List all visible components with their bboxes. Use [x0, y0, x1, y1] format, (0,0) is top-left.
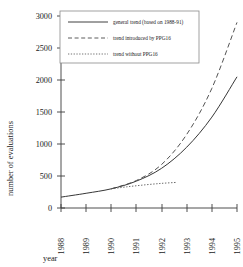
y-tick-label-2000: 2000	[36, 76, 52, 85]
y-tick-label-1500: 1500	[36, 108, 52, 117]
legend-label-trend-without: trend without PPG16	[113, 51, 158, 57]
y-tick-label-0: 0	[48, 204, 52, 213]
legend-label-general-trend: general trend (based on 1988-91)	[113, 19, 184, 26]
x-tick-label-1990: 1990	[107, 238, 116, 254]
chart-legend: general trend (based on 1988-91) trend i…	[60, 11, 199, 63]
x-tick-label-1989: 1989	[82, 238, 91, 254]
y-tick-label-500: 500	[40, 172, 52, 181]
x-tick-label-1994: 1994	[208, 238, 217, 254]
x-tick-label-1992: 1992	[158, 238, 167, 254]
x-tick-label-1995: 1995	[233, 238, 242, 254]
line-chart: 3000 2500 2000 1500 1000 500 0 1988 1989…	[0, 0, 243, 267]
y-tick-label-2500: 2500	[36, 44, 52, 53]
y-tick-label-1000: 1000	[36, 140, 52, 149]
x-tick-label-1991: 1991	[132, 238, 141, 254]
x-axis-title: year	[43, 254, 58, 263]
series-general-trend	[61, 77, 237, 197]
x-tick-label-1993: 1993	[183, 238, 192, 254]
chart-container: 3000 2500 2000 1500 1000 500 0 1988 1989…	[0, 0, 243, 267]
x-tick-label-1988: 1988	[57, 238, 66, 254]
y-tick-label-3000: 3000	[36, 12, 52, 21]
legend-label-trend-introduced: trend introduced by PPG16	[113, 35, 171, 41]
y-axis-title: number of evaluations	[6, 121, 15, 196]
